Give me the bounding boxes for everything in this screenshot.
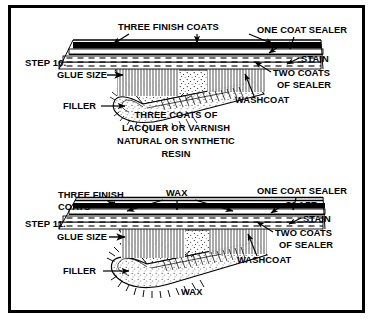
step-11-diagram: STEP 11. THREE FINISH COATS WAX ONE COAT…	[11, 8, 362, 310]
label-two-coats-sealer-line1: TWO COATS	[275, 228, 332, 238]
figure-page: STEP 10. THREE FINISH COATS ONE COAT SEA…	[0, 0, 373, 319]
label-one-coat-sealer: ONE COAT SEALER	[257, 186, 347, 196]
label-washcoat: WASHCOAT	[237, 255, 292, 265]
label-stain: STAIN	[303, 214, 331, 224]
panel-step-11: STEP 11. THREE FINISH COATS WAX ONE COAT…	[11, 8, 362, 310]
label-wax-bottom: WAX	[181, 287, 203, 297]
figure-border: STEP 10. THREE FINISH COATS ONE COAT SEA…	[8, 5, 365, 313]
label-glaze: GLAZE	[285, 200, 317, 210]
label-glue-size: GLUE SIZE	[57, 232, 107, 242]
label-two-coats-sealer-line2: OF SEALER	[279, 240, 333, 250]
label-wax-top: WAX	[166, 188, 188, 198]
label-three-finish-line1: THREE FINISH	[58, 190, 124, 200]
step-label: STEP 11.	[25, 218, 66, 229]
label-three-finish-line2: COATS	[58, 202, 90, 212]
label-filler: FILLER	[63, 266, 96, 276]
